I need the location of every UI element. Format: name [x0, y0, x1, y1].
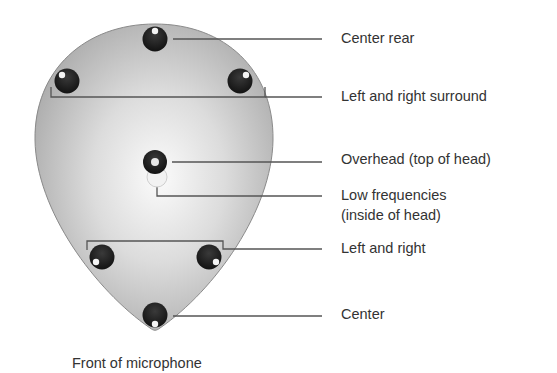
label-center: Center — [341, 305, 385, 324]
capsule-center — [143, 303, 168, 328]
label-center-rear: Center rear — [341, 29, 414, 48]
capsule-right — [197, 245, 222, 270]
capsule-overhead — [143, 150, 167, 174]
label-left-right-surround: Left and right surround — [341, 87, 487, 106]
label-low-frequencies: Low frequencies — [341, 186, 447, 205]
capsule-left — [90, 245, 115, 270]
microphone-diagram — [0, 0, 557, 373]
capsule-center-rear — [143, 27, 168, 52]
capsule-left-surround — [55, 69, 80, 94]
label-overhead: Overhead (top of head) — [341, 150, 491, 169]
capsule-right-surround — [228, 69, 253, 94]
label-left-right: Left and right — [341, 239, 426, 258]
caption-front-of-microphone: Front of microphone — [72, 355, 202, 371]
label-low-frequencies-detail: (inside of head) — [341, 206, 441, 225]
